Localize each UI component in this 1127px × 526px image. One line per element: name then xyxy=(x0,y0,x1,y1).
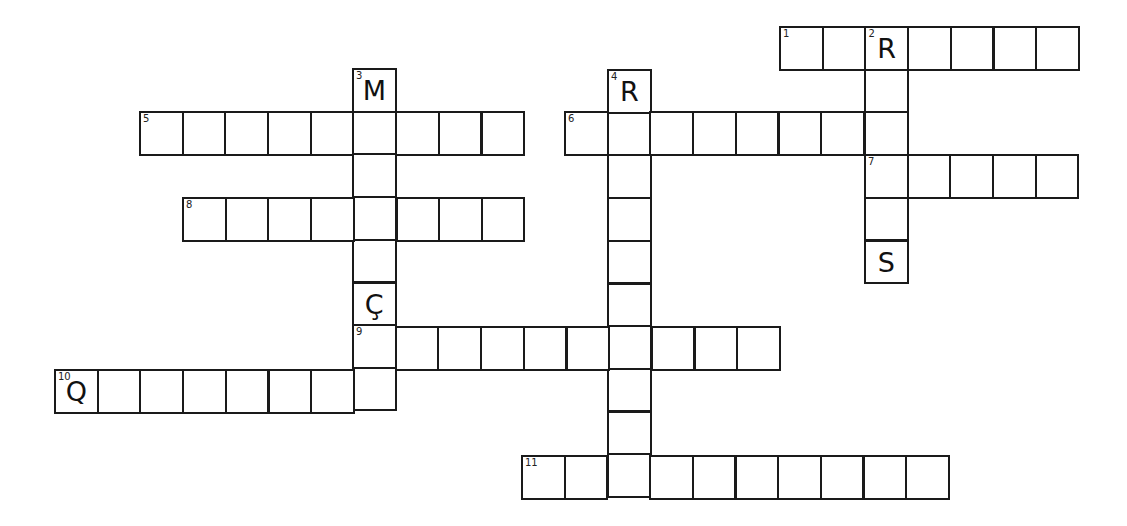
crossword-cell[interactable] xyxy=(905,455,950,500)
crossword-cell[interactable]: 10Q xyxy=(54,369,99,414)
crossword-cell[interactable] xyxy=(778,111,823,156)
crossword-cell[interactable]: 8 xyxy=(182,197,227,242)
crossword-cell[interactable] xyxy=(97,369,142,414)
crossword-cell[interactable] xyxy=(822,26,867,71)
given-letter: Ç xyxy=(354,290,395,320)
crossword-cell[interactable] xyxy=(523,326,568,371)
crossword-cell[interactable]: 1 xyxy=(779,26,824,71)
crossword-cell[interactable] xyxy=(907,154,952,199)
crossword-cell[interactable] xyxy=(224,111,269,156)
crossword-cell[interactable] xyxy=(694,326,739,371)
crossword-cell[interactable] xyxy=(820,111,865,156)
crossword-cell[interactable]: S xyxy=(864,240,909,285)
clue-number: 11 xyxy=(525,458,538,468)
clue-number: 6 xyxy=(568,114,574,124)
crossword-cell[interactable] xyxy=(564,455,609,500)
crossword-cell[interactable] xyxy=(950,26,995,71)
crossword-cell[interactable] xyxy=(437,326,482,371)
crossword-cell[interactable]: 3M xyxy=(352,68,397,113)
crossword-cell[interactable] xyxy=(352,153,397,198)
crossword-cell[interactable]: 4R xyxy=(607,69,652,114)
crossword-cell[interactable] xyxy=(735,111,780,156)
given-letter: R xyxy=(866,34,907,64)
crossword-cell[interactable] xyxy=(992,154,1037,199)
crossword-cell[interactable]: 5 xyxy=(139,111,184,156)
crossword-cell[interactable] xyxy=(310,197,355,242)
clue-number: 7 xyxy=(868,157,874,167)
crossword-cell[interactable] xyxy=(566,326,611,371)
crossword-cell[interactable] xyxy=(864,111,909,156)
crossword-cell[interactable] xyxy=(481,197,526,242)
crossword-cell[interactable] xyxy=(267,111,312,156)
crossword-cell[interactable] xyxy=(735,455,780,500)
crossword-cell[interactable] xyxy=(607,283,652,328)
clue-number: 8 xyxy=(186,200,192,210)
crossword-cell[interactable] xyxy=(692,111,737,156)
given-letter: M xyxy=(354,76,395,106)
crossword-cell[interactable] xyxy=(949,154,994,199)
crossword-cell[interactable] xyxy=(607,240,652,285)
crossword-cell[interactable] xyxy=(310,111,355,156)
given-letter: Q xyxy=(56,377,97,407)
crossword-cell[interactable]: 9 xyxy=(352,324,397,369)
crossword-cell[interactable] xyxy=(607,368,652,413)
crossword-cell[interactable] xyxy=(692,455,737,500)
crossword-cell[interactable] xyxy=(907,26,952,71)
crossword-cell[interactable] xyxy=(864,197,909,242)
crossword-cell[interactable]: Ç xyxy=(352,282,397,327)
crossword-cell[interactable] xyxy=(310,369,355,414)
crossword-cell[interactable] xyxy=(267,197,312,242)
crossword-cell[interactable] xyxy=(481,111,526,156)
clue-number: 5 xyxy=(143,114,149,124)
crossword-cell[interactable] xyxy=(993,26,1038,71)
crossword-cell[interactable] xyxy=(352,239,397,284)
crossword-cell[interactable] xyxy=(225,369,270,414)
crossword-cell[interactable] xyxy=(820,455,865,500)
crossword-cell[interactable]: 6 xyxy=(564,111,609,156)
given-letter: R xyxy=(609,77,650,107)
crossword-cell[interactable]: 7 xyxy=(864,154,909,199)
crossword-cell[interactable] xyxy=(607,411,652,456)
crossword-cell[interactable] xyxy=(396,197,441,242)
crossword-cell[interactable] xyxy=(736,326,781,371)
crossword-cell[interactable] xyxy=(1035,26,1080,71)
crossword-cell[interactable] xyxy=(438,197,483,242)
crossword-grid: 12R7S3MÇ94R56810Q11 xyxy=(0,0,1127,526)
crossword-cell[interactable] xyxy=(607,112,652,157)
crossword-cell[interactable] xyxy=(352,196,397,241)
crossword-cell[interactable] xyxy=(395,326,440,371)
given-letter: S xyxy=(866,248,907,278)
crossword-cell[interactable] xyxy=(182,111,227,156)
crossword-cell[interactable] xyxy=(1035,154,1080,199)
crossword-cell[interactable]: 2R xyxy=(864,26,909,71)
crossword-cell[interactable] xyxy=(225,197,270,242)
crossword-cell[interactable] xyxy=(182,369,227,414)
clue-number: 9 xyxy=(356,327,362,337)
crossword-cell[interactable] xyxy=(352,367,397,412)
crossword-cell[interactable] xyxy=(352,111,397,156)
crossword-cell[interactable] xyxy=(268,369,313,414)
crossword-cell[interactable] xyxy=(480,326,525,371)
crossword-cell[interactable] xyxy=(649,455,694,500)
crossword-cell[interactable] xyxy=(607,325,652,370)
crossword-cell[interactable] xyxy=(607,154,652,199)
crossword-cell[interactable] xyxy=(395,111,440,156)
crossword-cell[interactable]: 11 xyxy=(521,455,566,500)
crossword-cell[interactable] xyxy=(438,111,483,156)
crossword-cell[interactable] xyxy=(863,455,908,500)
crossword-cell[interactable] xyxy=(777,455,822,500)
crossword-cell[interactable] xyxy=(649,111,694,156)
crossword-cell[interactable] xyxy=(607,453,652,498)
crossword-cell[interactable] xyxy=(651,326,696,371)
crossword-cell[interactable] xyxy=(139,369,184,414)
crossword-cell[interactable] xyxy=(607,197,652,242)
crossword-cell[interactable] xyxy=(864,69,909,114)
clue-number: 1 xyxy=(783,29,789,39)
